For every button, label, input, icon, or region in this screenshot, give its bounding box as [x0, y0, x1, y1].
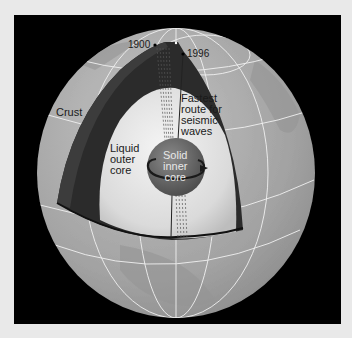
label-crust: Crust — [56, 107, 82, 118]
label-1996: 1996 — [187, 48, 209, 59]
marker-1900 — [153, 43, 156, 46]
label-liquid-outer-core: Liquid outer core — [110, 143, 139, 176]
marker-1996 — [181, 52, 184, 55]
north-pole-point — [175, 42, 177, 44]
label-fastest-route: Fastest route for seismic waves — [181, 93, 222, 137]
label-solid-inner-core: Solid inner core — [163, 150, 187, 183]
label-1900: 1900 — [128, 39, 150, 50]
